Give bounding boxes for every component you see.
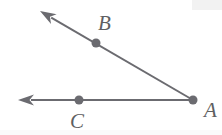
point-b-label: B: [98, 11, 111, 35]
point-a-dot: [189, 96, 198, 105]
point-a-label: A: [202, 98, 217, 122]
point-c-dot: [75, 96, 84, 105]
geometry-figure: A B C: [0, 0, 222, 135]
point-b-dot: [92, 39, 101, 48]
point-c-label: C: [70, 109, 85, 133]
figure-canvas: A B C: [0, 0, 222, 135]
ray-ab-arrowhead: [40, 11, 57, 24]
ray-ab: [40, 11, 193, 100]
ray-ac: [18, 94, 193, 105]
ray-ab-shaft: [51, 18, 193, 100]
